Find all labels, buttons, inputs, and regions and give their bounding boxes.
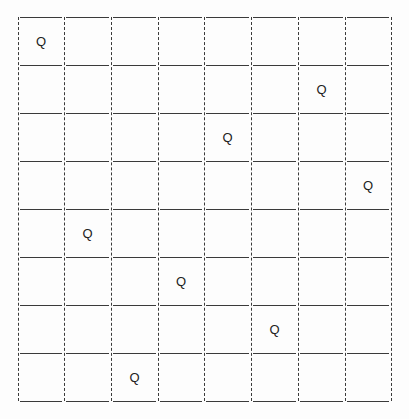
board-cell — [18, 161, 64, 209]
board-cell — [251, 17, 298, 65]
grid-line-horizontal — [20, 401, 62, 402]
board-cell: Q — [64, 209, 111, 257]
queen-piece: Q — [82, 227, 92, 240]
grid-line-horizontal — [160, 401, 202, 402]
board-cell — [64, 305, 111, 353]
board-cell — [204, 65, 251, 113]
board-cell — [298, 161, 345, 209]
board-cell — [251, 353, 298, 401]
board-cell — [158, 161, 204, 209]
board-cell — [64, 113, 111, 161]
queen-piece: Q — [222, 131, 232, 144]
board-cell — [64, 257, 111, 305]
board-cell — [345, 305, 391, 353]
board-cell: Q — [345, 161, 391, 209]
board-cell — [111, 113, 158, 161]
board-cell — [111, 17, 158, 65]
queen-piece: Q — [176, 275, 186, 288]
board-cell — [204, 257, 251, 305]
board-cell — [345, 65, 391, 113]
board-cell — [298, 17, 345, 65]
queen-piece: Q — [316, 83, 326, 96]
board-cell — [64, 65, 111, 113]
board-cell — [204, 161, 251, 209]
grid-line-horizontal — [300, 401, 343, 402]
board-cell — [158, 17, 204, 65]
board-cell — [298, 257, 345, 305]
board-cell — [64, 353, 111, 401]
board-cell: Q — [18, 17, 64, 65]
board-cell — [158, 113, 204, 161]
board-cell — [158, 65, 204, 113]
board-cell — [251, 209, 298, 257]
board-cell — [251, 65, 298, 113]
grid-line-horizontal — [113, 401, 156, 402]
board-cell — [158, 353, 204, 401]
board-cell: Q — [251, 305, 298, 353]
board-cell: Q — [111, 353, 158, 401]
board-cell — [18, 209, 64, 257]
grid-line-horizontal — [206, 401, 249, 402]
board-cell — [204, 17, 251, 65]
board-cell — [345, 353, 391, 401]
queen-piece: Q — [36, 35, 46, 48]
grid-line-horizontal — [66, 401, 109, 402]
board-cell — [64, 161, 111, 209]
board-cell — [18, 353, 64, 401]
board-cell — [204, 305, 251, 353]
board-cell — [18, 305, 64, 353]
board-cell — [298, 353, 345, 401]
board-cell — [345, 17, 391, 65]
board-cell — [251, 113, 298, 161]
board-cell — [251, 161, 298, 209]
board-cell: Q — [204, 113, 251, 161]
board-cell — [158, 209, 204, 257]
board-cell — [111, 65, 158, 113]
queen-piece: Q — [129, 371, 139, 384]
board-cell — [298, 209, 345, 257]
board-cell — [18, 257, 64, 305]
board-cell — [251, 257, 298, 305]
board-cell: Q — [298, 65, 345, 113]
board-cell — [18, 65, 64, 113]
queen-piece: Q — [269, 323, 279, 336]
board-cell — [204, 209, 251, 257]
board-cell — [298, 305, 345, 353]
board-cell — [111, 209, 158, 257]
board-cell — [111, 305, 158, 353]
board-cell — [64, 17, 111, 65]
grid-line-horizontal — [347, 401, 389, 402]
board-cell: Q — [158, 257, 204, 305]
board-cell — [345, 113, 391, 161]
board-cell — [345, 257, 391, 305]
grid-line-vertical — [391, 17, 392, 401]
chessboard-grid: QQQQQQQQ — [0, 0, 409, 419]
grid-line-horizontal — [253, 401, 296, 402]
board-cell — [298, 113, 345, 161]
board-cell — [158, 305, 204, 353]
board-cell — [111, 257, 158, 305]
board-cell — [18, 113, 64, 161]
board-cell — [204, 353, 251, 401]
queen-piece: Q — [363, 179, 373, 192]
board-cell — [111, 161, 158, 209]
board-cell — [345, 209, 391, 257]
